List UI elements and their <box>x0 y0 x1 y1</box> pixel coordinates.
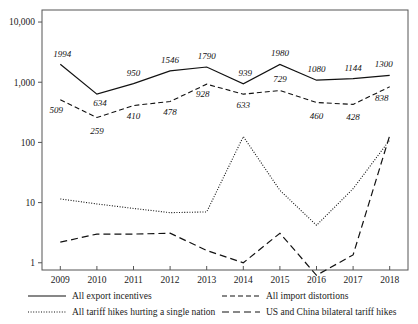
x-tick-label: 2011 <box>124 275 143 285</box>
series-lines <box>60 64 389 275</box>
legend-label-2: All tariff hikes hurting a single nation <box>72 307 216 317</box>
legend-label-1: All import distortions <box>266 291 349 301</box>
series-line-1 <box>60 84 389 117</box>
y-tick-label: 10,000 <box>9 17 35 27</box>
x-tick-label: 2010 <box>87 275 106 285</box>
data-label: 838 <box>375 93 389 103</box>
x-tick-label: 2013 <box>197 275 216 285</box>
data-labels: 1994634950154617909391980108011441300509… <box>50 48 394 135</box>
plot-frame <box>42 10 408 270</box>
chart-legend: All export incentivesAll import distorti… <box>28 291 397 317</box>
data-label: 259 <box>90 126 104 136</box>
data-label: 410 <box>127 111 141 121</box>
x-tick-label: 2014 <box>234 275 253 285</box>
y-tick-label: 10 <box>26 198 36 208</box>
log-line-chart: 10,0001,00010010120092010201120122013201… <box>0 0 418 324</box>
data-label: 428 <box>346 112 360 122</box>
data-label: 460 <box>310 111 324 121</box>
data-label: 950 <box>127 68 141 78</box>
data-label: 1790 <box>198 51 217 61</box>
data-label: 633 <box>237 100 251 110</box>
legend-label-3: US and China bilateral tariff hikes <box>266 307 397 317</box>
data-label: 939 <box>239 68 253 78</box>
x-tick-label: 2016 <box>307 275 326 285</box>
y-tick-label: 1,000 <box>14 78 36 88</box>
data-label: 1080 <box>308 64 327 74</box>
data-label: 1144 <box>344 63 362 73</box>
x-tick-label: 2009 <box>51 275 70 285</box>
data-label: 1546 <box>161 55 180 65</box>
x-tick-label: 2018 <box>380 275 399 285</box>
y-tick-label: 1 <box>30 258 35 268</box>
data-label: 509 <box>50 105 64 115</box>
y-tick-label: 100 <box>21 138 36 148</box>
data-label: 928 <box>196 89 210 99</box>
data-label: 478 <box>163 107 177 117</box>
data-label: 1300 <box>375 59 394 69</box>
data-label: 1994 <box>53 49 72 59</box>
series-line-0 <box>60 64 389 94</box>
chart-figure: 10,0001,00010010120092010201120122013201… <box>0 0 418 324</box>
data-label: 729 <box>273 74 287 84</box>
legend-label-0: All export incentives <box>72 291 152 301</box>
x-tick-label: 2012 <box>161 275 180 285</box>
data-label: 634 <box>93 98 107 108</box>
series-line-2 <box>60 137 389 226</box>
x-tick-label: 2017 <box>344 275 363 285</box>
data-label: 1980 <box>271 48 290 58</box>
x-tick-label: 2015 <box>270 275 289 285</box>
